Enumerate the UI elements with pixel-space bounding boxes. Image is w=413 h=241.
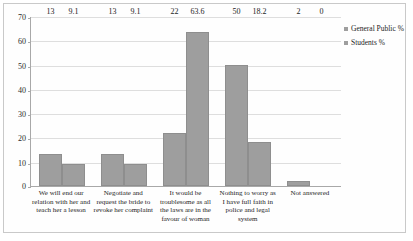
legend-item-students[interactable]: Students % — [344, 39, 406, 47]
legend-swatch-icon — [344, 27, 348, 31]
bar-slot: 63.6 — [186, 17, 209, 186]
bar-value-label: 9.1 — [131, 8, 141, 16]
bar-group: 139.1 — [31, 17, 93, 186]
x-axis-labels: We will end our relation with her and te… — [30, 189, 341, 223]
chart-legend: General Public % Students % — [344, 25, 406, 53]
bar-slot: 22 — [163, 17, 186, 186]
bar[interactable]: 50 — [225, 65, 248, 186]
ytick-label-30: 30 — [18, 111, 26, 119]
bar-slot: 13 — [39, 17, 62, 186]
bar-group: 5018.2 — [217, 17, 279, 186]
ytick-label-40: 40 — [18, 87, 26, 95]
ytick-label-70: 70 — [18, 14, 26, 22]
x-axis-label: Not answered — [279, 189, 341, 223]
bar-slot: 13 — [101, 17, 124, 186]
bar-value-label: 2 — [297, 8, 301, 16]
bar[interactable]: 2 — [287, 181, 310, 186]
bar-group: 139.1 — [93, 17, 155, 186]
bar-slot: 0 — [310, 17, 333, 186]
bar-value-label: 13 — [109, 8, 117, 16]
bar[interactable]: 9.1 — [124, 164, 147, 186]
ytick-label-20: 20 — [18, 135, 26, 143]
bar-value-label: 63.6 — [191, 8, 205, 16]
bar-value-label: 0 — [320, 8, 324, 16]
x-axis-label: Negotiate and request the bride to revok… — [92, 189, 154, 223]
legend-item-general-public[interactable]: General Public % — [344, 25, 406, 33]
bar[interactable]: 63.6 — [186, 32, 209, 186]
x-axis-label: Nothing to worry as I have full faith in… — [217, 189, 279, 223]
bar-groups: 139.1139.12263.65018.220 — [31, 17, 341, 186]
bar[interactable]: 22 — [163, 133, 186, 186]
legend-label: General Public % — [351, 25, 404, 33]
bar[interactable]: 13 — [39, 154, 62, 186]
bar-group: 2263.6 — [155, 17, 217, 186]
x-axis-label: We will end our relation with her and te… — [30, 189, 92, 223]
bar[interactable]: 18.2 — [248, 142, 271, 186]
x-axis-label: It would be troublesome as all the laws … — [154, 189, 216, 223]
bar-slot: 2 — [287, 17, 310, 186]
ytick-label-60: 60 — [18, 38, 26, 46]
bar-slot: 9.1 — [124, 17, 147, 186]
legend-label: Students % — [351, 39, 385, 47]
bar-group: 20 — [279, 17, 341, 186]
ytick-label-0: 0 — [22, 183, 26, 191]
bar-slot: 18.2 — [248, 17, 271, 186]
ytick-label-10: 10 — [18, 160, 26, 168]
bar[interactable]: 9.1 — [62, 164, 85, 186]
legend-swatch-icon — [344, 41, 348, 45]
ytick-label-50: 50 — [18, 63, 26, 71]
plot-area: 70 60 50 40 30 20 10 0 139.11 — [30, 17, 341, 187]
ytick-mark — [28, 187, 31, 188]
chart-frame: 70 60 50 40 30 20 10 0 139.11 — [3, 3, 406, 233]
bar-value-label: 9.1 — [69, 8, 79, 16]
bar-value-label: 22 — [171, 8, 179, 16]
bar-value-label: 13 — [47, 8, 55, 16]
bar-slot: 9.1 — [62, 17, 85, 186]
bar-value-label: 50 — [233, 8, 241, 16]
bar[interactable]: 13 — [101, 154, 124, 186]
bar-slot: 50 — [225, 17, 248, 186]
bar-value-label: 18.2 — [253, 8, 267, 16]
